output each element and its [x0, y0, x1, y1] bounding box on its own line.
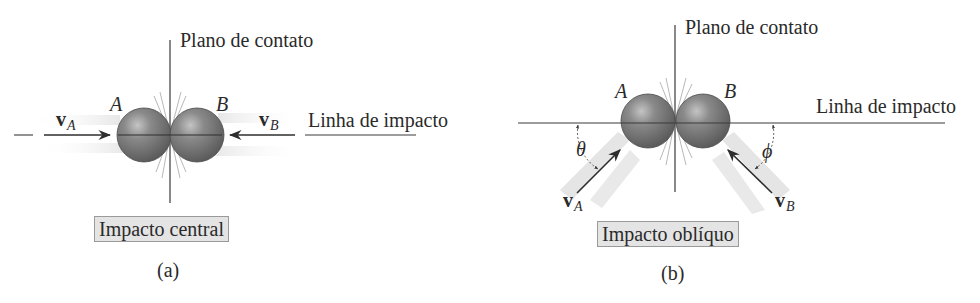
body-b-label-b: B [724, 80, 736, 102]
velocity-subscript: B [786, 199, 795, 214]
velocity-subscript: A [66, 118, 76, 133]
velocity-symbol: v [259, 108, 269, 130]
contact-plane-label-a: Plano de contato [180, 29, 313, 51]
velocity-symbol: v [775, 189, 785, 211]
sphere-a [621, 94, 675, 148]
velocity-symbol: v [56, 108, 66, 130]
panel-oblique-impact: Plano de contato A B Linha de impacto θ … [518, 16, 956, 214]
angle-phi-label: ϕ [762, 140, 772, 163]
body-a-label-a: A [108, 93, 123, 115]
velocity-subscript: B [270, 118, 279, 133]
body-b-label-a: B [216, 93, 228, 115]
sphere-b [676, 94, 730, 148]
contact-plane-label-b: Plano de contato [685, 16, 818, 38]
impact-diagram: Plano de contato A B Linha de impacto v … [0, 0, 980, 303]
impact-line-label-b: Linha de impacto [816, 95, 956, 118]
subfigure-label-b: (b) [661, 262, 684, 285]
velocity-subscript: A [573, 199, 583, 214]
caption-central-impact: Impacto central [94, 216, 229, 242]
impact-line-label-a: Linha de impacto [308, 109, 448, 132]
caption-oblique-impact: Impacto oblíquo [597, 221, 739, 247]
body-a-label-b: A [613, 80, 628, 102]
subfigure-label-a: (a) [157, 259, 179, 282]
angle-theta-label: θ [576, 138, 586, 160]
panel-central-impact: Plano de contato A B Linha de impacto v … [14, 29, 448, 203]
velocity-symbol: v [563, 189, 573, 211]
